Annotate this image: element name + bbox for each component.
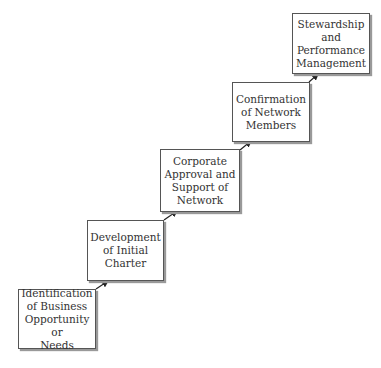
step-box-identification: Identification of Business Opportunity o… [18,289,96,349]
step-1-line-2: of Business [21,300,93,313]
step-box-development: Development of Initial Charter [87,220,164,281]
step-1-line-4: Needs [21,339,93,352]
arrow-1-2 [96,281,108,289]
step-2-line-3: Charter [90,257,160,270]
step-4-line-3: Members [236,119,306,132]
step-2-line-2: of Initial [90,244,160,257]
step-5-line-2: and [296,31,366,44]
step-1-line-3: Opportunity or [21,313,93,339]
step-5-line-4: Management [296,57,366,70]
step-box-corporate-approval: Corporate Approval and Support of Networ… [160,149,240,212]
step-4-line-1: Confirmation [236,93,306,106]
step-5-line-1: Stewardship [296,18,366,31]
step-5-line-3: Performance [296,44,366,57]
step-box-stewardship: Stewardship and Performance Management [292,13,370,74]
arrow-4-5 [309,74,318,82]
step-2-line-1: Development [90,231,160,244]
step-3-line-4: Network [165,194,236,207]
step-1-line-1: Identification [21,287,93,300]
step-3-line-3: Support of [165,181,236,194]
step-4-line-2: of Network [236,106,306,119]
step-3-line-1: Corporate [165,155,236,168]
arrow-2-3 [164,211,177,220]
arrow-3-4 [240,141,251,150]
step-3-line-2: Approval and [165,168,236,181]
step-box-confirmation: Confirmation of Network Members [232,82,310,142]
